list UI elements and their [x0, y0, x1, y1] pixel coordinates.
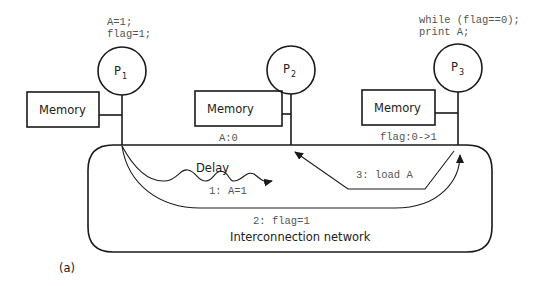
network-label: Interconnection network: [230, 230, 371, 244]
message-2-label: 2: flag=1: [253, 215, 310, 227]
svg-text:P: P: [114, 64, 121, 78]
svg-text:P: P: [283, 62, 290, 76]
svg-text:Memory: Memory: [374, 101, 421, 115]
p3-code-line-1: while (flag==0);: [419, 14, 520, 26]
svg-text:P: P: [451, 60, 458, 74]
figure-caption: (a): [59, 261, 75, 275]
svg-text:Memory: Memory: [39, 103, 86, 117]
p1-code-line-1: A=1;: [107, 16, 132, 28]
p3-code-line-2: print A;: [419, 26, 469, 38]
processor-p1: P 1 A=1; flag=1;: [98, 16, 151, 145]
memory-3-value: flag:0->1: [380, 131, 437, 143]
svg-text:2: 2: [291, 70, 296, 79]
svg-text:3: 3: [459, 68, 464, 77]
memory-1: Memory: [27, 92, 99, 127]
message-3-label: 3: load A: [356, 169, 413, 181]
memory-2-value: A:0: [219, 132, 238, 144]
processor-p2: P 2: [267, 46, 315, 145]
svg-text:1: 1: [122, 72, 127, 81]
memory-3: Memory flag:0->1: [362, 90, 437, 143]
p1-code-line-2: flag=1;: [107, 28, 151, 40]
delay-label: Delay: [196, 161, 229, 175]
multiprocessor-diagram: P 1 A=1; flag=1; P 2 P 3 while (flag==0)…: [0, 0, 541, 286]
message-1-label: 1: A=1: [209, 185, 247, 197]
svg-text:Memory: Memory: [207, 102, 254, 116]
memory-2: Memory A:0: [195, 91, 282, 144]
